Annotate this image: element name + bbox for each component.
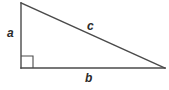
side-label-b: b — [85, 72, 92, 84]
side-label-a: a — [7, 27, 14, 39]
side-c-hypotenuse-line — [21, 3, 165, 68]
side-label-c: c — [87, 20, 94, 32]
right-angle-marker — [21, 56, 33, 68]
right-triangle-figure: a c b — [0, 0, 169, 90]
